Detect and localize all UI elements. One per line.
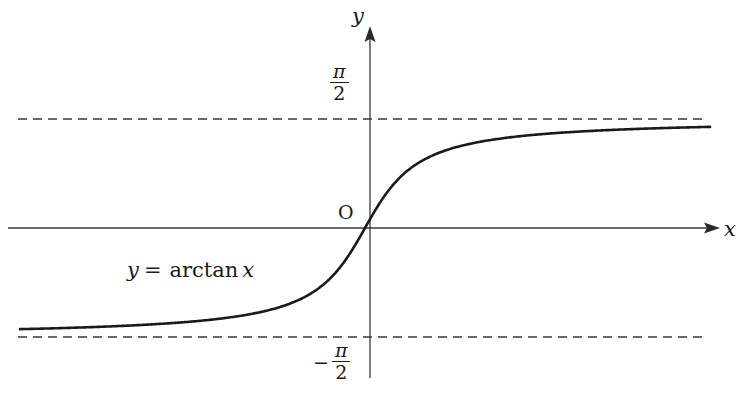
fraction-denominator: 2 bbox=[332, 362, 351, 382]
x-axis-name-label: x bbox=[724, 219, 736, 240]
tick-label-pi-over-2: π 2 bbox=[330, 62, 349, 103]
equation-lhs: y bbox=[127, 258, 139, 282]
tick-label-negative-pi-over-2: − π 2 bbox=[313, 341, 350, 382]
fraction-denominator: 2 bbox=[330, 83, 349, 103]
fraction-numerator: π bbox=[330, 62, 349, 83]
origin-label: O bbox=[338, 203, 354, 222]
equation-function-name: arctan bbox=[169, 258, 238, 282]
y-axis-name-label: y bbox=[352, 6, 364, 27]
plot-canvas bbox=[0, 0, 742, 396]
arctan-figure: y x O π 2 − π 2 y=arctanx bbox=[0, 0, 742, 396]
fraction-pi-over-2: π 2 bbox=[330, 62, 349, 103]
y-axis bbox=[365, 26, 376, 378]
curve-equation-label: y=arctanx bbox=[127, 260, 254, 281]
fraction-pi-over-2: π 2 bbox=[332, 341, 351, 382]
fraction-numerator: π bbox=[332, 341, 351, 362]
equation-equals-sign: = bbox=[144, 258, 162, 282]
minus-sign: − bbox=[313, 353, 329, 372]
signed-fraction-negative-pi-over-2: − π 2 bbox=[313, 341, 350, 382]
equation-argument: x bbox=[242, 258, 254, 282]
